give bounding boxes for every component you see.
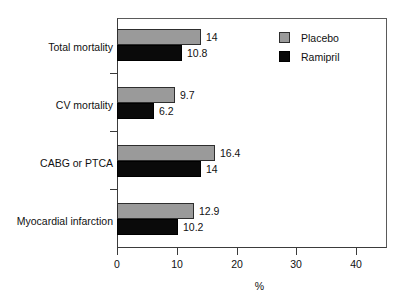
bar-ramipril-myocardial-infarction bbox=[117, 219, 178, 235]
legend-label-ramipril: Ramipril bbox=[301, 51, 340, 63]
legend-label-placebo: Placebo bbox=[301, 32, 339, 44]
bar-ramipril-cv-mortality bbox=[117, 103, 154, 119]
bar-value-ramipril-cabg-or-ptca: 14 bbox=[206, 161, 218, 177]
x-tick-label-0: 0 bbox=[102, 258, 132, 270]
bar-ramipril-total-mortality bbox=[117, 45, 182, 61]
x-tick-label-20: 20 bbox=[222, 258, 252, 270]
x-axis-title-text: % bbox=[255, 280, 264, 292]
legend-item-placebo: Placebo bbox=[279, 28, 340, 47]
ramipril-swatch-icon bbox=[279, 51, 290, 62]
category-label-cabg-or-ptca: CABG or PTCA bbox=[40, 157, 113, 169]
bar-placebo-cv-mortality bbox=[117, 87, 175, 103]
category-label-myocardial-infarction: Myocardial infarction bbox=[17, 215, 113, 227]
bar-ramipril-cabg-or-ptca bbox=[117, 161, 201, 177]
bar-value-placebo-myocardial-infarction: 12.9 bbox=[199, 203, 219, 219]
bar-value-placebo-cv-mortality: 9.7 bbox=[180, 87, 195, 103]
bar-value-ramipril-myocardial-infarction: 10.2 bbox=[183, 219, 203, 235]
bar-value-placebo-total-mortality: 14 bbox=[206, 29, 218, 45]
x-tick-0 bbox=[117, 248, 118, 255]
bar-value-placebo-cabg-or-ptca: 16.4 bbox=[220, 145, 240, 161]
bar-value-ramipril-cv-mortality: 6.2 bbox=[159, 103, 174, 119]
x-tick-label-40: 40 bbox=[341, 258, 371, 270]
category-label-cv-mortality: CV mortality bbox=[56, 99, 113, 111]
legend: Placebo Ramipril bbox=[279, 28, 340, 66]
placebo-swatch-icon bbox=[279, 32, 290, 43]
bar-placebo-myocardial-infarction bbox=[117, 203, 194, 219]
x-tick-10 bbox=[177, 248, 178, 255]
x-axis-title: % bbox=[0, 280, 401, 292]
x-tick-20 bbox=[237, 248, 238, 255]
bar-value-ramipril-total-mortality: 10.8 bbox=[187, 45, 207, 61]
bar-chart: Total mortality 14 10.8 CV mortality 9.7… bbox=[0, 0, 401, 304]
x-tick-30 bbox=[296, 248, 297, 255]
legend-item-ramipril: Ramipril bbox=[279, 47, 340, 66]
bar-placebo-cabg-or-ptca bbox=[117, 145, 215, 161]
category-label-total-mortality: Total mortality bbox=[48, 41, 113, 53]
y-tick-3 bbox=[110, 189, 117, 190]
x-tick-40 bbox=[356, 248, 357, 255]
x-tick-label-30: 30 bbox=[281, 258, 311, 270]
bar-placebo-total-mortality bbox=[117, 29, 201, 45]
y-tick-2 bbox=[110, 131, 117, 132]
x-tick-label-10: 10 bbox=[162, 258, 192, 270]
y-tick-1 bbox=[110, 73, 117, 74]
